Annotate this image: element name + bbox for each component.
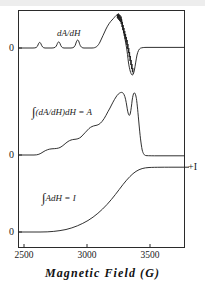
x-tick-label-3500: 3500 (130, 250, 170, 260)
trace-label-double-integral: ∫AdH = I (42, 190, 76, 206)
trace-label-derivative: dA/dH (57, 28, 81, 38)
y-baseline-label-double-integral: 0 (0, 226, 14, 237)
y-baseline-label-derivative: 0 (0, 42, 14, 53)
y-baseline-label-absorption: 0 (0, 149, 14, 160)
trace-absorption (19, 92, 184, 155)
trace-label-absorption: ∫(dA/dH)dH = A (32, 104, 92, 120)
x-axis-title: Magnetic Field (G) (0, 266, 205, 281)
trace-derivative (19, 14, 184, 76)
axis-ticks (18, 48, 189, 248)
trace-label-absorption-text: (dA/dH)dH = A (36, 107, 92, 117)
x-tick-label-3000: 3000 (67, 250, 107, 260)
trace-label-double-integral-text: AdH = I (46, 193, 76, 203)
epr-figure: 0 0 0 +I dA/dH ∫(dA/dH)dH = A ∫AdH = I 2… (0, 0, 205, 294)
x-tick-label-2500: 2500 (4, 250, 44, 260)
plateau-label-plus-i: +I (188, 161, 197, 172)
